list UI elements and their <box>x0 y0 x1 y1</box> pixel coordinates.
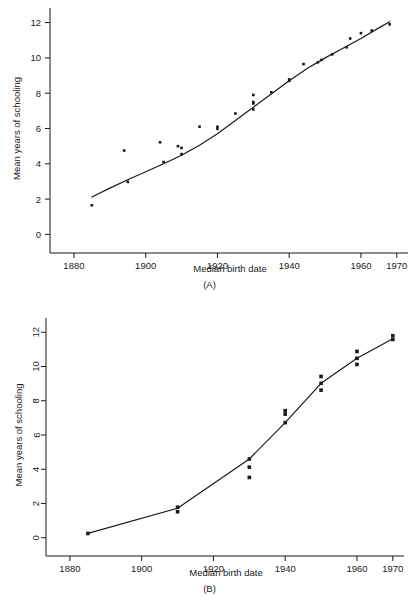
panel-b: 188019001920194019601970024681012Median … <box>0 300 419 602</box>
panel-a-data-point <box>388 23 391 26</box>
panel-a-data-point <box>331 53 334 56</box>
panel-b-data-point <box>355 363 359 367</box>
panel-a: 188019001920194019601970024681012Median … <box>0 0 419 300</box>
panel-b-ytick-label: 12 <box>31 327 42 338</box>
panel-a-data-point <box>177 145 180 148</box>
panel-a-y-axis-title: Mean years of schooling <box>11 77 22 180</box>
panel-a-data-point <box>370 29 373 32</box>
panel-a-xtick-label: 1960 <box>350 260 371 271</box>
panel-b-ytick-label: 6 <box>31 432 42 437</box>
panel-b-data-point <box>283 421 287 425</box>
panel-a-xtick-label: 1900 <box>135 260 156 271</box>
panel-b-data-point <box>355 357 359 361</box>
panel-b-ytick-label: 4 <box>31 467 42 472</box>
panel-b-xtick-label: 1940 <box>275 563 296 574</box>
panel-a-data-point <box>252 108 255 111</box>
panel-a-ytick-label: 10 <box>30 52 41 63</box>
panel-b-ytick-label: 10 <box>31 361 42 372</box>
panel-a-fit-line <box>92 22 390 197</box>
panel-b-xtick-label: 1970 <box>382 563 403 574</box>
panel-a-data-point <box>345 46 348 49</box>
panel-a-data-point <box>159 141 162 144</box>
panel-a-ytick-label: 8 <box>36 88 41 99</box>
panel-a-data-point <box>180 147 183 150</box>
panel-a-xtick-label: 1880 <box>63 260 84 271</box>
panel-b-svg: 188019001920194019601970024681012Median … <box>0 300 419 602</box>
panel-b-xtick-label: 1960 <box>346 563 367 574</box>
panel-a-data-point <box>320 59 323 62</box>
panel-a-data-point <box>349 37 352 40</box>
panel-a-ytick-label: 2 <box>36 194 41 205</box>
panel-b-data-point <box>283 409 287 413</box>
panel-b-data-point <box>176 505 180 509</box>
panel-a-ytick-label: 4 <box>36 158 41 169</box>
panel-a-data-point <box>162 161 165 164</box>
panel-b-x-axis-title: Median birth date <box>189 567 262 578</box>
panel-a-data-point <box>317 61 320 64</box>
panel-a-ytick-label: 12 <box>30 17 41 28</box>
panel-b-data-point <box>319 375 323 379</box>
panel-a-data-point <box>360 32 363 35</box>
panel-a-xtick-label: 1940 <box>279 260 300 271</box>
panel-b-xtick-label: 1880 <box>59 563 80 574</box>
panel-a-svg: 188019001920194019601970024681012Median … <box>0 0 419 300</box>
panel-a-data-point <box>180 153 183 156</box>
panel-b-data-point <box>319 388 323 392</box>
panel-b-data-point <box>86 532 90 536</box>
panel-b-data-point <box>391 338 395 342</box>
panel-a-data-point <box>234 112 237 115</box>
panel-b-data-point <box>248 465 252 469</box>
panel-a-xtick-label: 1970 <box>386 260 407 271</box>
panel-b-xtick-label: 1900 <box>131 563 152 574</box>
panel-b-caption: (B) <box>203 583 216 594</box>
panel-a-caption: (A) <box>203 279 216 290</box>
panel-b-data-point <box>355 350 359 354</box>
panel-a-data-point <box>252 102 255 105</box>
panel-a-data-point <box>91 204 94 207</box>
panel-a-data-point <box>302 63 305 66</box>
panel-a-data-point <box>288 80 291 83</box>
panel-b-fit-line <box>88 339 393 534</box>
panel-b-data-point <box>283 412 287 416</box>
panel-a-data-point <box>270 91 273 94</box>
panel-b-data-point <box>391 334 395 338</box>
panel-b-data-point <box>319 381 323 385</box>
panel-a-ytick-label: 6 <box>36 123 41 134</box>
panel-a-data-point <box>198 125 201 128</box>
panel-b-ytick-label: 0 <box>31 535 42 540</box>
panel-a-ytick-label: 0 <box>36 229 41 240</box>
panel-a-data-point <box>126 181 129 184</box>
panel-a-x-axis-title: Median birth date <box>193 263 266 274</box>
panel-b-data-point <box>176 510 180 514</box>
panel-b-data-point <box>248 476 252 480</box>
panel-a-data-point <box>252 94 255 97</box>
panel-a-data-point <box>123 149 126 152</box>
panel-b-data-point <box>248 457 252 461</box>
panel-b-y-axis-title: Mean years of schooling <box>13 384 24 487</box>
panel-b-ytick-label: 8 <box>31 398 42 403</box>
panel-a-data-point <box>216 128 219 131</box>
panel-b-ytick-label: 2 <box>31 501 42 506</box>
